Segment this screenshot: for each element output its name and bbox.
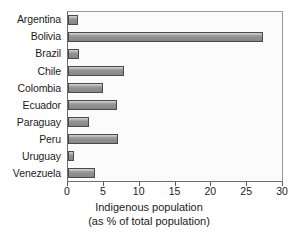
x-tick-label: 15 (169, 186, 181, 197)
category-axis: Argentina Bolivia Brazil Chile Colombia … (0, 11, 64, 182)
x-tick-label: 20 (204, 186, 216, 197)
plot-area (67, 11, 283, 182)
bar-ecuador (68, 100, 117, 110)
x-axis-title-line1: Indigenous population (0, 200, 298, 214)
bar-row (68, 80, 282, 97)
category-label-colombia: Colombia (0, 79, 64, 96)
category-label-brazil: Brazil (0, 45, 64, 62)
x-axis-title-line2: (as % of total population) (0, 214, 298, 228)
bar-bolivia (68, 32, 263, 42)
bar-brazil (68, 49, 79, 59)
category-label-venezuela: Venezuela (0, 165, 64, 182)
x-tick-label: 30 (276, 186, 288, 197)
bar-row (68, 29, 282, 46)
x-tick-label: 10 (133, 186, 145, 197)
category-label-argentina: Argentina (0, 11, 64, 28)
bar-colombia (68, 83, 103, 93)
category-label-uruguay: Uruguay (0, 148, 64, 165)
bar-chile (68, 66, 124, 76)
bar-argentina (68, 15, 78, 25)
bar-row (68, 46, 282, 63)
x-tick-label: 5 (100, 186, 106, 197)
category-label-peru: Peru (0, 131, 64, 148)
bar-row (68, 164, 282, 181)
bar-row (68, 63, 282, 80)
bar-chart: Argentina Bolivia Brazil Chile Colombia … (0, 0, 298, 235)
bar-paraguay (68, 117, 89, 127)
x-tick-label: 25 (240, 186, 252, 197)
category-label-bolivia: Bolivia (0, 28, 64, 45)
x-tick-label: 0 (64, 186, 70, 197)
bar-row (68, 113, 282, 130)
bar-venezuela (68, 168, 95, 178)
bar-uruguay (68, 151, 74, 161)
category-label-chile: Chile (0, 62, 64, 79)
bar-row (68, 97, 282, 114)
x-axis-title: Indigenous population (as % of total pop… (0, 200, 298, 228)
bar-row (68, 12, 282, 29)
category-label-ecuador: Ecuador (0, 96, 64, 113)
bar-row (68, 130, 282, 147)
bar-row (68, 147, 282, 164)
bar-peru (68, 134, 118, 144)
category-label-paraguay: Paraguay (0, 114, 64, 131)
bars-layer (68, 12, 282, 181)
